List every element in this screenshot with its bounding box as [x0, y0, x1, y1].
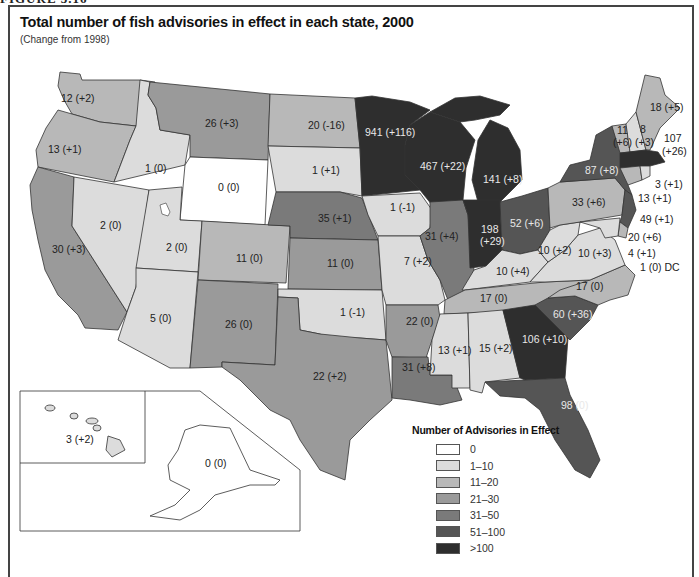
state-ri [640, 166, 650, 180]
label-tx: 22 (+2) [313, 370, 347, 382]
legend-swatch [436, 543, 460, 554]
label-wi: 467 (+22) [420, 160, 465, 172]
label-md: 4 (+1) [628, 247, 656, 259]
legend-item-4: 31–50 [436, 507, 559, 524]
label-ut: 2 (0) [166, 241, 188, 253]
label-mt: 26 (+3) [205, 117, 239, 129]
label-vt-b: (+6) [613, 136, 632, 148]
label-wa: 12 (+2) [61, 92, 95, 104]
label-vt-a: 11 [617, 124, 628, 136]
inset-frame [20, 391, 300, 531]
legend-item-0: 0 [436, 441, 559, 458]
label-sc: 60 (+36) [553, 308, 592, 320]
legend-swatch [436, 526, 460, 537]
label-me: 18 (+5) [650, 101, 684, 113]
label-ms: 13 (+1) [438, 344, 472, 356]
label-ny: 87 (+8) [585, 164, 619, 176]
legend-title: Number of Advisories in Effect [412, 424, 559, 436]
legend-label: 0 [470, 443, 476, 455]
label-in-a: 198 [481, 223, 499, 235]
label-nv: 2 (0) [100, 219, 122, 231]
label-nj: 49 (+1) [640, 213, 674, 225]
legend-item-6: >100 [436, 540, 559, 557]
state-hi [106, 436, 125, 457]
label-pa: 33 (+6) [572, 196, 606, 208]
label-ma-b: (+26) [662, 145, 687, 157]
label-nd: 20 (-16) [308, 119, 345, 131]
hawaii-island [93, 425, 101, 431]
legend-label: 51–100 [470, 526, 505, 538]
label-wy: 0 (0) [218, 181, 240, 193]
label-ak: 0 (0) [205, 457, 227, 469]
legend: Number of Advisories in Effect 0 1–10 11… [412, 424, 559, 557]
label-ri: 3 (+1) [655, 178, 683, 190]
label-wv: 10 (+2) [538, 244, 572, 256]
label-fl: 98 (0) [561, 399, 588, 411]
label-ky: 10 (+4) [496, 265, 530, 277]
label-oh: 52 (+6) [510, 217, 544, 229]
hawaii-island [70, 413, 78, 419]
label-ct: 13 (+1) [638, 192, 672, 204]
legend-swatch [436, 460, 460, 471]
state-wi [405, 112, 475, 205]
hawaii-inset-frame [20, 391, 145, 463]
legend-label: 21–30 [470, 493, 499, 505]
legend-item-2: 11–20 [436, 474, 559, 491]
label-mo: 7 (+2) [404, 255, 432, 267]
label-ma-a: 107 [664, 132, 682, 144]
label-la: 31 (+8) [402, 361, 436, 373]
legend-swatch [436, 477, 460, 488]
label-ks: 11 (0) [327, 257, 354, 269]
state-mi [472, 120, 522, 202]
legend-swatch [436, 444, 460, 455]
legend-swatch [436, 510, 460, 521]
label-il: 31 (+4) [425, 230, 459, 242]
label-va: 10 (+3) [578, 247, 612, 259]
legend-label: 11–20 [470, 476, 498, 488]
legend-swatch [436, 493, 460, 504]
label-nc: 17 (0) [576, 280, 603, 292]
label-al: 15 (+2) [479, 342, 513, 354]
label-tn: 17 (0) [480, 292, 507, 304]
hawaii-island [86, 418, 98, 424]
label-de: 20 (+6) [628, 231, 662, 243]
label-mi: 141 (+8) [483, 173, 522, 185]
label-nm: 26 (0) [225, 318, 252, 330]
label-ok: 1 (-1) [340, 306, 365, 318]
label-ga: 106 (+10) [522, 333, 567, 345]
label-sd: 1 (+1) [312, 164, 340, 176]
hawaii-island [45, 405, 55, 411]
legend-label: 31–50 [470, 509, 499, 521]
legend-item-5: 51–100 [436, 524, 559, 541]
label-nh-a: 8 [640, 123, 646, 135]
legend-item-3: 21–30 [436, 491, 559, 508]
label-az: 5 (0) [150, 312, 172, 324]
label-in-b: (+29) [480, 235, 505, 247]
label-ia: 1 (-1) [390, 201, 415, 213]
label-ca: 30 (+3) [52, 243, 86, 255]
label-nh-b: (+3) [635, 136, 654, 148]
legend-item-1: 1–10 [436, 458, 559, 475]
legend-label: 1–10 [470, 460, 493, 472]
label-id: 1 (0) [145, 162, 167, 174]
legend-label: >100 [470, 542, 494, 554]
state-ma [620, 150, 665, 168]
label-ne: 35 (+1) [318, 212, 352, 224]
label-or: 13 (+1) [48, 143, 82, 155]
label-dc: 1 (0) DC [640, 261, 680, 273]
label-mn: 941 (+116) [365, 126, 415, 138]
label-hi: 3 (+2) [66, 433, 94, 445]
label-ar: 22 (0) [406, 315, 433, 327]
label-co: 11 (0) [236, 252, 263, 264]
